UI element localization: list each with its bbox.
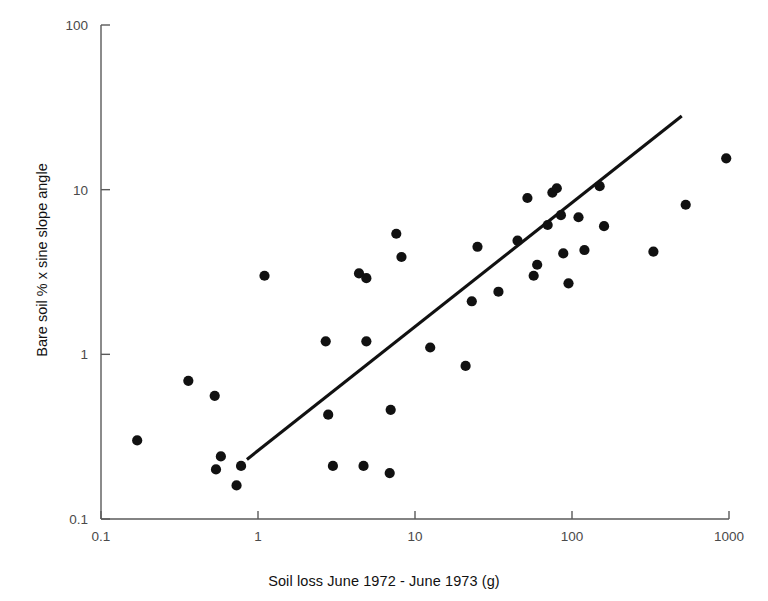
data-point: [552, 183, 562, 193]
data-point: [648, 247, 658, 257]
regression-line-segment: [247, 116, 682, 459]
data-point: [522, 193, 532, 203]
data-point: [556, 210, 566, 220]
regression-line: [247, 116, 682, 459]
x-tick-label: 0.1: [92, 529, 111, 544]
data-point: [361, 273, 371, 283]
data-point: [183, 376, 193, 386]
data-point: [573, 212, 583, 222]
data-point: [558, 248, 568, 258]
plot-axes: [101, 25, 729, 519]
data-point: [595, 181, 605, 191]
data-point: [321, 336, 331, 346]
data-point: [210, 391, 220, 401]
data-point: [681, 200, 691, 210]
data-point: [467, 296, 477, 306]
data-point: [132, 435, 142, 445]
data-point: [211, 464, 221, 474]
data-point: [472, 242, 482, 252]
y-tick-label: 100: [65, 18, 88, 33]
data-point: [328, 461, 338, 471]
x-axis-title: Soil loss June 1972 - June 1973 (g): [0, 573, 768, 589]
x-tick-label: 1: [254, 529, 262, 544]
y-tick-label: 1: [80, 347, 88, 362]
data-point: [579, 245, 589, 255]
y-tick-label: 0.1: [69, 512, 88, 527]
y-axis-ticks: 0.1110100: [65, 18, 110, 527]
data-point: [216, 451, 226, 461]
data-point: [386, 405, 396, 415]
data-point: [460, 361, 470, 371]
data-points: [132, 153, 731, 490]
x-tick-label: 10: [407, 529, 422, 544]
data-point: [358, 461, 368, 471]
data-point: [396, 252, 406, 262]
data-point: [532, 260, 542, 270]
data-point: [599, 221, 609, 231]
data-point: [231, 480, 241, 490]
data-point: [259, 271, 269, 281]
chart-figure: 0.11101001000 0.1110100 Bare soil % x si…: [0, 0, 768, 601]
x-axis-ticks: 0.11101001000: [92, 511, 744, 544]
scatter-plot-canvas: 0.11101001000 0.1110100: [0, 0, 768, 601]
data-point: [391, 229, 401, 239]
data-point: [721, 153, 731, 163]
data-point: [543, 220, 553, 230]
data-point: [236, 461, 246, 471]
data-point: [425, 342, 435, 352]
data-point: [512, 236, 522, 246]
data-point: [529, 271, 539, 281]
y-tick-label: 10: [73, 183, 88, 198]
data-point: [493, 287, 503, 297]
data-point: [385, 468, 395, 478]
x-tick-label: 100: [561, 529, 584, 544]
data-point: [563, 278, 573, 288]
data-point: [323, 410, 333, 420]
data-point: [361, 336, 371, 346]
x-tick-label: 1000: [714, 529, 744, 544]
y-axis-title: Bare soil % x sine slope angle: [34, 110, 50, 410]
